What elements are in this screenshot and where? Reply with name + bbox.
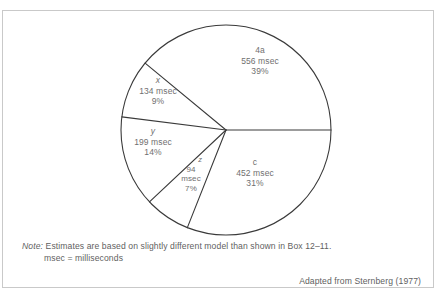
- slice-z-name: z: [178, 155, 204, 165]
- slice-label-4a: 4a 556 msec 39%: [215, 45, 305, 77]
- note-label: Note:: [22, 241, 43, 251]
- slice-z-value-number: 94: [178, 165, 204, 175]
- slice-z-value-unit: msec: [178, 174, 204, 184]
- slice-c-name: c: [210, 157, 300, 168]
- figure-note: Note: Estimates are based on slightly di…: [22, 240, 331, 264]
- note-text: Estimates are based on slightly differen…: [46, 241, 332, 251]
- note-line-1: Note: Estimates are based on slightly di…: [22, 240, 331, 252]
- slice-label-y: y 199 msec 14%: [108, 126, 198, 158]
- note-line-2: msec = milliseconds: [22, 252, 331, 264]
- slice-y-value: 199 msec: [108, 137, 198, 148]
- slice-y-name: y: [108, 126, 198, 137]
- slice-label-z: z 94 msec 7%: [178, 155, 204, 193]
- slice-label-c: c 452 msec 31%: [210, 157, 300, 189]
- slice-x-name: x: [113, 75, 203, 86]
- slice-x-value: 134 msec: [113, 86, 203, 97]
- slice-z-percent: 7%: [178, 184, 204, 194]
- slice-label-x: x 134 msec 9%: [113, 75, 203, 107]
- source-attribution: Adapted from Sternberg (1977): [299, 276, 421, 286]
- slice-x-percent: 9%: [113, 96, 203, 107]
- slice-4a-percent: 39%: [215, 66, 305, 77]
- slice-4a-value: 556 msec: [215, 56, 305, 67]
- slice-c-percent: 31%: [210, 178, 300, 189]
- slice-4a-name: 4a: [215, 45, 305, 56]
- slice-c-value: 452 msec: [210, 168, 300, 179]
